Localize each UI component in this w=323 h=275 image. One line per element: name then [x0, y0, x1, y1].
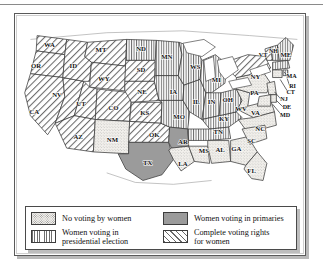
- state-de: [271, 95, 277, 103]
- legend-label-presidential: Women voting in presidential election: [62, 228, 128, 246]
- state-md: [257, 95, 270, 106]
- state-label-va: VA: [251, 109, 260, 116]
- state-label-mn: MN: [161, 53, 172, 60]
- legend-item-full-rights: Complete voting rights for women: [163, 228, 291, 246]
- us-map: WAORCANVIDMTWYUTCOAZNMNDSDNEKSOKTXMNIAMO…: [19, 18, 305, 200]
- state-label-tn: TN: [214, 128, 224, 135]
- state-label-sd: SD: [137, 66, 146, 73]
- state-label-fl: FL: [247, 167, 256, 174]
- state-label-sc: SC: [247, 137, 256, 144]
- us-map-svg: WAORCANVIDMTWYUTCOAZNMNDSDNEKSOKTXMNIAMO…: [19, 18, 305, 200]
- state-label-ga: GA: [231, 145, 241, 152]
- map-legend: No voting by women Women voting in prima…: [25, 206, 297, 250]
- legend-item-none: No voting by women: [31, 212, 159, 225]
- legend-grid: No voting by women Women voting in prima…: [26, 207, 296, 249]
- figure-frame: WAORCANVIDMTWYUTCOAZNMNDSDNEKSOKTXMNIAMO…: [14, 13, 306, 256]
- state-label-ne: NE: [137, 88, 147, 95]
- state-label-tx: TX: [143, 159, 153, 166]
- state-label-ma: MA: [287, 73, 298, 79]
- legend-item-presidential: Women voting in presidential election: [31, 228, 159, 246]
- state-label-oh: OH: [223, 96, 234, 103]
- state-label-ca: CA: [29, 108, 39, 115]
- state-label-mt: MT: [96, 46, 107, 53]
- state-label-la: LA: [178, 160, 188, 167]
- legend-label-primaries: Women voting in primaries: [194, 214, 284, 223]
- state-label-nh: NH: [269, 48, 278, 54]
- legend-swatch-presidential: [31, 230, 56, 243]
- legend-label-full-rights: Complete voting rights for women: [194, 228, 270, 246]
- state-label-nd: ND: [136, 45, 146, 52]
- state-label-ky: KY: [219, 115, 229, 122]
- state-label-ri: RI: [289, 83, 296, 89]
- state-label-ok: OK: [149, 131, 160, 138]
- legend-swatch-full-rights: [163, 230, 188, 243]
- state-ma: [273, 60, 290, 70]
- state-label-ws: WS: [190, 63, 201, 70]
- state-label-or: OR: [31, 62, 41, 69]
- state-label-nj: NJ: [280, 96, 287, 102]
- state-label-ny: NY: [251, 73, 261, 80]
- state-shapes: [25, 36, 294, 181]
- page-top-rule: [0, 4, 323, 5]
- state-label-in: IN: [208, 98, 216, 105]
- state-label-wv: WV: [235, 106, 247, 113]
- state-label-nm: NM: [107, 136, 119, 143]
- state-label-nc: NC: [255, 125, 265, 132]
- state-label-ar: AR: [178, 138, 188, 145]
- figure-page: WAORCANVIDMTWYUTCOAZNMNDSDNEKSOKTXMNIAMO…: [0, 0, 323, 275]
- state-label-ct: CT: [286, 89, 294, 95]
- state-label-mo: MO: [173, 113, 185, 120]
- state-label-az: AZ: [73, 133, 83, 140]
- figure-inner-border: WAORCANVIDMTWYUTCOAZNMNDSDNEKSOKTXMNIAMO…: [16, 15, 304, 254]
- legend-swatch-primaries: [163, 212, 188, 225]
- legend-swatch-no-voting: [31, 212, 56, 225]
- state-label-ks: KS: [140, 109, 149, 116]
- state-label-al: AL: [215, 146, 225, 153]
- state-label-mi: MI: [212, 76, 221, 83]
- state-label-id: ID: [70, 62, 78, 69]
- state-label-ms: MS: [199, 147, 209, 154]
- state-label-me: ME: [280, 51, 291, 58]
- state-label-de: DE: [283, 104, 291, 110]
- state-label-co: CO: [108, 104, 118, 111]
- legend-item-primaries: Women voting in primaries: [163, 212, 291, 225]
- state-tn: [188, 127, 231, 140]
- state-label-pa: PA: [250, 89, 259, 96]
- state-label-vt: VT: [259, 52, 267, 58]
- state-label-wy: WY: [98, 75, 110, 82]
- state-label-nv: NV: [52, 91, 62, 98]
- state-label-wa: WA: [44, 41, 55, 48]
- state-label-ut: UT: [76, 100, 86, 107]
- state-label-md: MD: [280, 112, 291, 118]
- legend-label-no-voting: No voting by women: [62, 214, 131, 223]
- state-ct: [273, 70, 283, 78]
- state-label-ia: IA: [170, 88, 178, 95]
- state-label-il: IL: [193, 98, 201, 105]
